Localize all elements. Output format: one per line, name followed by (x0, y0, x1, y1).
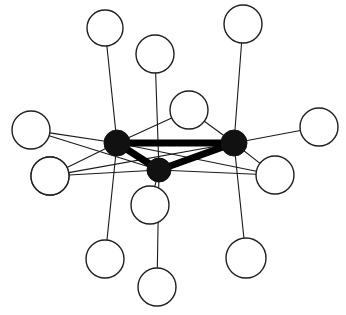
graph-edge-H2-L12 (234, 143, 244, 238)
graph-edge-H3-L2 (156, 73, 159, 170)
graph-edge-H1-L10 (107, 143, 117, 240)
leaf-node-layer (12, 5, 338, 306)
graph-edge-H2-L3 (234, 43, 242, 143)
leaf-node-top-mid-leaf[interactable] (136, 35, 174, 73)
leaf-node-left-upper-leaf[interactable] (12, 111, 50, 149)
network-graph-canvas (0, 0, 346, 315)
hub-node-left-hub[interactable] (104, 130, 130, 156)
hub-node-right-hub[interactable] (221, 130, 247, 156)
leaf-node-far-left-lower-leaf[interactable] (31, 157, 69, 195)
leaf-node-top-right-leaf[interactable] (224, 5, 262, 43)
network-figure (0, 0, 346, 315)
leaf-node-right-upper-leaf[interactable] (300, 108, 338, 146)
leaf-node-bottom-right-leaf[interactable] (226, 238, 266, 278)
leaf-node-bottom-left-leaf[interactable] (86, 240, 124, 278)
hub-node-layer (104, 130, 247, 182)
leaf-node-bottom-mid-leaf[interactable] (138, 268, 176, 306)
hub-node-bottom-hub[interactable] (147, 158, 171, 182)
leaf-node-right-lower-leaf[interactable] (256, 156, 294, 194)
leaf-node-center-upper-leaf[interactable] (170, 91, 208, 129)
graph-edge-H1-L1 (107, 46, 117, 143)
spoke-edge-layer (49, 43, 300, 268)
leaf-node-top-left-leaf[interactable] (87, 10, 123, 46)
graph-edge-H3-L9 (159, 170, 256, 174)
leaf-node-center-lower-leaf[interactable] (131, 186, 169, 224)
